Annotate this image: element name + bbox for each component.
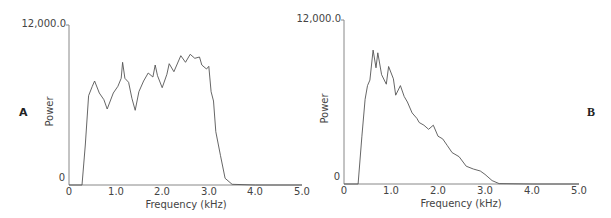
axes-b (341, 20, 579, 184)
plot-canvas (0, 0, 611, 218)
axes-a (66, 25, 302, 185)
spectrum-line-a (69, 54, 302, 185)
spectrum-line-b (344, 50, 579, 184)
